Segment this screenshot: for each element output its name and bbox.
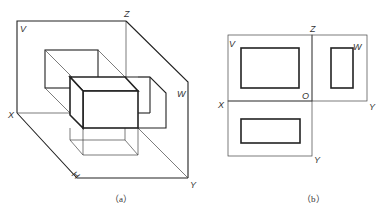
top-view-rect xyxy=(241,119,300,143)
y-axis-h xyxy=(138,128,188,178)
front-view-rect xyxy=(241,48,299,88)
panel-b: V Z W X O Y Y （b） xyxy=(217,24,376,204)
side-view-rect xyxy=(331,48,353,88)
label-h: H xyxy=(70,169,82,181)
panel-a: V Z W X H Y （a） xyxy=(7,9,197,204)
label-y-bottom: Y xyxy=(314,155,321,165)
label-z: Z xyxy=(123,9,130,19)
label-v: V xyxy=(229,39,236,49)
label-x: X xyxy=(7,110,15,120)
box-front-face xyxy=(83,91,138,128)
label-o: O xyxy=(302,91,309,101)
label-w: W xyxy=(353,42,363,52)
label-x: X xyxy=(217,100,225,110)
projector-line xyxy=(98,50,125,77)
label-v: V xyxy=(20,24,27,34)
projection-diagram: V Z W X H Y （a） V Z W X O Y Y （b） xyxy=(0,0,377,215)
caption-a: （a） xyxy=(110,194,132,204)
h-projection-rect xyxy=(70,128,138,155)
projector-line xyxy=(45,88,70,113)
h-projection-edge xyxy=(125,140,138,155)
caption-b: （b） xyxy=(302,194,325,204)
label-w: W xyxy=(177,89,187,99)
label-y-right: Y xyxy=(369,102,376,112)
label-z: Z xyxy=(309,24,316,34)
label-y: Y xyxy=(190,180,197,190)
